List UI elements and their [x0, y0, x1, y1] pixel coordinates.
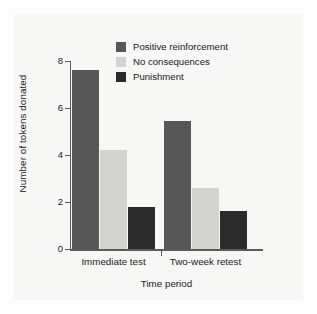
bar	[192, 188, 219, 249]
legend-item-label: No consequences	[133, 57, 210, 67]
chart-legend: Positive reinforcementNo consequencesPun…	[116, 40, 228, 85]
bar	[128, 207, 155, 249]
legend-swatch-icon	[116, 72, 126, 82]
x-axis-category-label: Immediate test	[64, 256, 164, 267]
legend-swatch-icon	[116, 57, 126, 67]
bar	[100, 150, 127, 249]
legend-swatch-icon	[116, 42, 126, 52]
legend-item: No consequences	[116, 55, 228, 69]
legend-item: Punishment	[116, 70, 228, 84]
bars-layer	[0, 0, 317, 249]
x-axis-title: Time period	[70, 278, 263, 289]
bar	[164, 121, 191, 249]
x-axis-category-label: Two-week retest	[156, 256, 256, 267]
y-axis-tick	[65, 249, 70, 250]
legend-item-label: Positive reinforcement	[133, 42, 228, 52]
bar	[72, 70, 99, 249]
legend-item-label: Punishment	[133, 72, 184, 82]
x-axis-line	[70, 249, 263, 251]
bar	[220, 211, 247, 249]
legend-item: Positive reinforcement	[116, 40, 228, 54]
bar-chart-figure: 02468 Number of tokens donated Immediate…	[0, 0, 317, 314]
